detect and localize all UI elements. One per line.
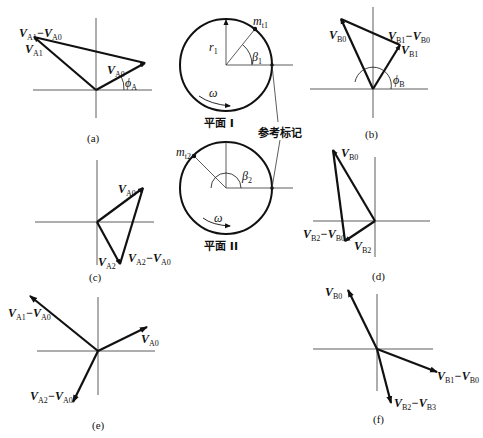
label-va0: VA0	[107, 64, 125, 79]
label-va2-minus-va0-e: VA2−VA0	[30, 390, 73, 405]
plane-1-circle	[180, 19, 293, 122]
label-vb0: VB0	[329, 29, 346, 44]
label-vb2: VB2	[354, 240, 371, 255]
label-beta2: β2	[242, 170, 252, 185]
label-vb1-minus-vb0-f: VB1−VB0	[437, 370, 479, 385]
diagram-canvas	[0, 0, 483, 438]
label-va1-minus-va0-e: VA1−VA0	[8, 307, 51, 322]
panel-b	[310, 7, 428, 118]
label-va0-e: VA0	[141, 333, 159, 348]
plane-1-title: 平面 I	[204, 118, 234, 129]
label-vb2-minus-vb0: VB2−VB0	[303, 228, 345, 243]
label-vb0-d: VB0	[341, 147, 358, 162]
panel-f	[313, 290, 437, 403]
caption-b: (b)	[365, 129, 378, 140]
caption-c: (c)	[89, 272, 101, 283]
label-va2-minus-va0: VA2−VA0	[128, 252, 171, 267]
label-vb2-minus-vb3-f: VB2−VB3	[394, 397, 436, 412]
caption-a: (a)	[87, 133, 99, 144]
label-omega-2: ω	[214, 212, 222, 224]
label-phi-b: ϕB	[393, 74, 405, 89]
label-vb1: VB1	[401, 44, 418, 59]
panel-c	[35, 160, 154, 265]
label-mt1: mt1	[253, 15, 268, 30]
caption-f: (f)	[373, 414, 384, 425]
label-r1: r1	[209, 41, 218, 56]
label-va2: VA2	[98, 256, 116, 271]
caption-d: (d)	[372, 271, 385, 282]
plane-2-circle	[180, 140, 293, 234]
label-beta1: β1	[252, 51, 262, 66]
label-phi-a: ϕA	[125, 77, 137, 92]
label-vb0-f: VB0	[325, 286, 342, 301]
reference-mark-label: 参考标记	[258, 128, 302, 139]
plane-2-title: 平面 II	[204, 241, 238, 252]
label-va0-c: VA0	[118, 183, 136, 198]
label-va1: VA1	[25, 43, 43, 58]
label-mt2: mt2	[176, 146, 191, 161]
label-omega-1: ω	[209, 87, 217, 99]
caption-e: (e)	[92, 420, 104, 431]
label-va1-minus-va0: VA1−VA0	[19, 27, 62, 42]
